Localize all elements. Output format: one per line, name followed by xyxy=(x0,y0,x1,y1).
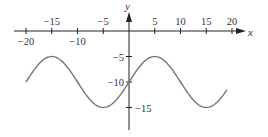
x-tick-label: 20 xyxy=(227,16,238,27)
x-tick-label: −15 xyxy=(44,16,60,27)
x-tick-label: −20 xyxy=(18,36,34,47)
sine-wave-chart: −20−15−10−55101520−5−10−15 x y xyxy=(0,0,268,137)
y-tick-label: −15 xyxy=(135,103,151,114)
x-tick-label: −5 xyxy=(98,16,109,27)
y-tick-label: −5 xyxy=(113,52,124,63)
x-axis-arrow-icon xyxy=(236,28,246,34)
x-tick-label: −10 xyxy=(69,36,85,47)
x-tick-label: 15 xyxy=(201,16,212,27)
x-tick-label: 10 xyxy=(175,16,186,27)
x-tick-label: 5 xyxy=(152,16,157,27)
x-axis-label: x xyxy=(247,26,253,38)
y-axis-label: y xyxy=(124,0,130,12)
y-tick-label: −10 xyxy=(108,77,124,88)
axes xyxy=(14,12,246,130)
y-axis-arrow-icon xyxy=(126,12,132,22)
